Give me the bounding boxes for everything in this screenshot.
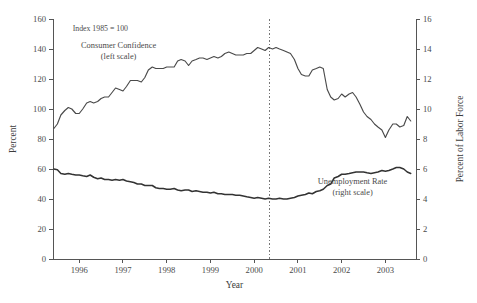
y-axis-title-left: Percent [8,125,18,154]
x-axis-tick-label: 1999 [202,265,219,275]
chart-figure: 0204060801001201401600246810121416199619… [0,0,477,303]
x-axis-tick-label: 1998 [158,265,175,275]
y-axis-title-right: Percent of Labor Force [455,96,465,183]
x-axis-tick-label: 2000 [246,265,263,275]
annotation-unemployment-rate: Unemployment Rate [318,177,388,186]
right-axis-tick-label: 6 [423,164,428,174]
right-axis-tick-label: 14 [423,44,432,54]
series-line-consumer-confidence [54,48,411,138]
left-axis-tick-label: 0 [42,254,46,264]
right-axis-tick-label: 12 [423,74,432,84]
right-axis-tick-label: 8 [423,134,427,144]
left-axis-tick-label: 100 [33,104,46,114]
right-axis-tick-label: 2 [423,224,427,234]
chart-canvas: 0204060801001201401600246810121416199619… [0,0,477,303]
right-axis-tick-label: 10 [423,104,432,114]
chart-annotations: Index 1985 = 100Consumer Confidence(left… [73,24,388,197]
left-axis-tick-label: 160 [33,14,46,24]
annotation-unemployment-rate-scale-note: (right scale) [332,188,372,197]
axis-titles: PercentPercent of Labor ForceYear [8,96,466,290]
x-axis-tick-label: 1997 [114,265,132,275]
x-axis-tick-label: 2001 [289,265,306,275]
right-axis-tick-label: 16 [423,14,432,24]
annotation-consumer-confidence: Consumer Confidence [81,41,156,50]
left-axis-tick-label: 80 [37,134,46,144]
left-axis-tick-label: 120 [33,74,46,84]
right-axis-tick-label: 0 [423,254,427,264]
left-axis-tick-label: 40 [37,194,46,204]
x-axis-tick-label: 2003 [377,265,394,275]
x-axis-tick-label: 2002 [333,265,350,275]
left-axis-tick-label: 140 [33,44,46,54]
left-axis-tick-label: 60 [37,164,46,174]
left-axis-tick-label: 20 [37,224,46,234]
x-axis-title: Year [226,280,244,290]
annotation-consumer-confidence-scale-note: (left scale) [101,52,137,61]
x-axis-tick-label: 1996 [71,265,89,275]
chart-note-index-base: Index 1985 = 100 [73,24,128,33]
right-axis-tick-label: 4 [423,194,428,204]
